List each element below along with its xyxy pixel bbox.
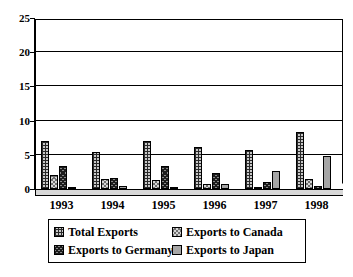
- y-label-10: 10: [8, 116, 30, 127]
- bar-group-1995: [138, 19, 189, 189]
- bar-1997-total-exports: [245, 150, 253, 189]
- y-label-20: 20: [8, 47, 30, 58]
- x-label-1997: 1997: [240, 198, 291, 212]
- bar-1998-exports-to-canada: [305, 179, 313, 189]
- legend-item-exports-to-germany: Exports to Germany: [54, 241, 172, 259]
- legend-label-exports-to-germany: Exports to Germany: [68, 244, 173, 257]
- bar-chart: 0510152025 199319941995199619971998 Tota…: [0, 0, 353, 277]
- legend-swatch-exports-to-germany: [54, 245, 64, 255]
- bar-1998-total-exports: [296, 132, 304, 189]
- bar-1997-exports-to-germany: [263, 182, 271, 189]
- y-label-15: 15: [8, 81, 30, 92]
- bar-group-1996: [189, 19, 240, 189]
- y-label-5: 5: [8, 150, 30, 161]
- axis-base-corner: [337, 182, 344, 189]
- y-axis-labels: 0510152025: [4, 19, 30, 190]
- x-axis-labels: 199319941995199619971998: [36, 198, 342, 214]
- bar-group-1994: [87, 19, 138, 189]
- legend-item-total-exports: Total Exports: [54, 223, 172, 241]
- bar-1995-exports-to-canada: [152, 180, 160, 189]
- legend-row-1: Total Exports Exports to Canada: [54, 223, 300, 241]
- legend-label-total-exports: Total Exports: [68, 226, 138, 239]
- bar-1998-exports-to-japan: [323, 156, 331, 189]
- bars-layer: [36, 19, 342, 189]
- legend-item-exports-to-canada: Exports to Canada: [172, 223, 283, 241]
- x-label-1994: 1994: [87, 198, 138, 212]
- x-label-1996: 1996: [189, 198, 240, 212]
- bar-1993-total-exports: [41, 141, 49, 189]
- legend-label-exports-to-japan: Exports to Japan: [186, 244, 274, 257]
- chart-legend: Total Exports Exports to Canada Exports …: [48, 219, 306, 263]
- legend-row-2: Exports to Germany Exports to Japan: [54, 241, 300, 259]
- bar-1993-exports-to-germany: [59, 166, 67, 189]
- bar-1993-exports-to-canada: [50, 175, 58, 189]
- x-label-1993: 1993: [36, 198, 87, 212]
- bar-1995-total-exports: [143, 141, 151, 189]
- legend-swatch-exports-to-canada: [172, 227, 182, 237]
- bar-1995-exports-to-germany: [161, 166, 169, 189]
- bar-group-1997: [240, 19, 291, 189]
- bar-1996-exports-to-germany: [212, 173, 220, 189]
- legend-item-exports-to-japan: Exports to Japan: [172, 241, 274, 259]
- axis-base-slab: [35, 189, 343, 196]
- bar-group-1998: [291, 19, 342, 189]
- y-label-0: 0: [8, 184, 30, 195]
- bar-1994-exports-to-canada: [101, 179, 109, 189]
- y-label-25: 25: [8, 13, 30, 24]
- x-label-1995: 1995: [138, 198, 189, 212]
- x-label-1998: 1998: [291, 198, 342, 212]
- legend-label-exports-to-canada: Exports to Canada: [186, 226, 283, 239]
- legend-swatch-total-exports: [54, 227, 64, 237]
- bar-1997-exports-to-japan: [272, 171, 280, 189]
- bar-1996-total-exports: [194, 147, 202, 189]
- bar-1994-exports-to-germany: [110, 178, 118, 189]
- bar-group-1993: [36, 19, 87, 189]
- legend-swatch-exports-to-japan: [172, 245, 182, 255]
- bar-1994-total-exports: [92, 152, 100, 189]
